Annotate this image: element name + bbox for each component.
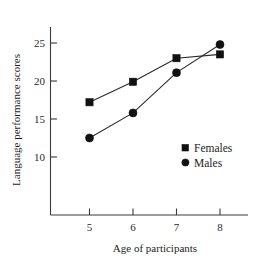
x-axis-ticks (90, 209, 221, 216)
data-point-females-age-5 (86, 99, 93, 106)
y-tick-label-20: 20 (34, 75, 46, 87)
line-chart: 25 20 15 10 5 6 7 8 Age of participants … (0, 0, 271, 268)
series-markers-females (86, 51, 224, 106)
legend-label-females: Females (194, 142, 233, 154)
legend-label-males: Males (194, 157, 223, 169)
legend-marker-circle-icon (182, 159, 189, 166)
x-tick-label-5: 5 (87, 221, 93, 233)
legend-marker-square-icon (182, 145, 189, 152)
x-tick-label-6: 6 (130, 221, 136, 233)
y-axis-title: Language performance scores (10, 54, 22, 186)
data-point-males-age-5 (86, 134, 94, 142)
chart-figure: 25 20 15 10 5 6 7 8 Age of participants … (0, 0, 271, 268)
y-tick-label-10: 10 (34, 151, 46, 163)
data-point-females-age-8 (216, 51, 223, 58)
y-tick-label-15: 15 (34, 113, 46, 125)
legend: Females Males (182, 142, 233, 169)
x-tick-label-8: 8 (217, 221, 223, 233)
series-line-females (90, 54, 221, 102)
y-axis-ticks (51, 43, 58, 157)
y-tick-label-25: 25 (34, 37, 46, 49)
data-point-males-age-8 (216, 41, 224, 49)
x-tick-label-7: 7 (174, 221, 180, 233)
data-point-males-age-6 (129, 109, 137, 117)
data-point-males-age-7 (173, 69, 181, 77)
series-line-males (90, 45, 221, 138)
data-point-females-age-6 (129, 78, 136, 85)
data-point-females-age-7 (173, 55, 180, 62)
x-axis-title: Age of participants (113, 242, 197, 254)
